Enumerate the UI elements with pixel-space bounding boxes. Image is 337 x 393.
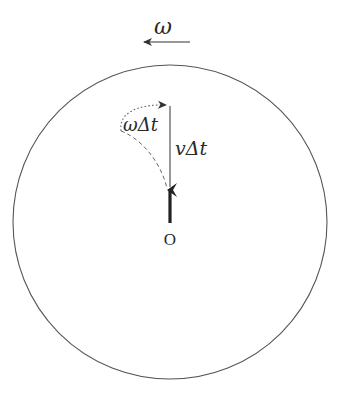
displacement-label: vΔt xyxy=(175,137,207,159)
origin-label: O xyxy=(164,230,176,249)
angle-label: ωΔt xyxy=(123,114,159,135)
omega-indicator: ω xyxy=(144,14,190,42)
omega-label: ω xyxy=(154,14,172,39)
rotating-disk-diagram: ω ωΔt vΔt O xyxy=(0,0,337,393)
trajectory-curve-dashed xyxy=(121,131,167,188)
